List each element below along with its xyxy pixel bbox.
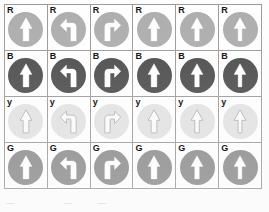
- signal-disc: [137, 58, 172, 93]
- cell-color-label: G: [178, 143, 185, 153]
- signal-disc: [94, 58, 129, 93]
- icon-grid: RRRRRRBBBBBByyyyyyGGGGGG: [4, 4, 262, 189]
- arrow-turn-left-icon: [54, 106, 84, 136]
- cell-color-label: R: [93, 5, 99, 15]
- arrow-turn-right-icon: [97, 14, 127, 44]
- cell-color-label: y: [135, 97, 140, 107]
- arrow-up-icon: [139, 60, 169, 90]
- signal-disc: [51, 58, 86, 93]
- arrow-turn-left-icon: [54, 152, 84, 182]
- icon-cell: y: [5, 97, 48, 143]
- arrow-up-icon: [182, 152, 212, 182]
- caption-fragment: —: [64, 198, 72, 207]
- cell-color-label: y: [7, 97, 12, 107]
- arrow-up-icon: [225, 106, 255, 136]
- icon-cell: G: [5, 143, 48, 189]
- icon-cell: R: [5, 5, 48, 51]
- signal-disc: [137, 104, 172, 139]
- cell-color-label: R: [135, 5, 141, 15]
- cell-color-label: R: [50, 5, 56, 15]
- cell-color-label: B: [93, 51, 99, 61]
- caption-fragment: —: [6, 198, 14, 207]
- icon-cell: G: [133, 143, 176, 189]
- cell-color-label: G: [50, 143, 57, 153]
- arrow-turn-right-icon: [97, 152, 127, 182]
- cell-color-label: B: [221, 51, 227, 61]
- figure-caption: — — —: [6, 196, 256, 210]
- cell-color-label: G: [93, 143, 100, 153]
- arrow-turn-left-icon: [54, 14, 84, 44]
- icon-cell: G: [219, 143, 262, 189]
- signal-disc: [137, 150, 172, 185]
- icon-cell: y: [48, 97, 91, 143]
- signal-disc: [8, 58, 43, 93]
- icon-cell: G: [48, 143, 91, 189]
- arrow-up-icon: [182, 14, 212, 44]
- signal-disc: [223, 12, 258, 47]
- icon-cell: R: [48, 5, 91, 51]
- arrow-up-icon: [11, 106, 41, 136]
- cell-color-label: B: [50, 51, 56, 61]
- cell-color-label: y: [178, 97, 183, 107]
- icon-cell: B: [133, 51, 176, 97]
- icon-cell: G: [91, 143, 134, 189]
- icon-cell: y: [219, 97, 262, 143]
- signal-disc: [8, 150, 43, 185]
- cell-color-label: R: [7, 5, 13, 15]
- cell-color-label: B: [135, 51, 141, 61]
- cell-color-label: y: [221, 97, 226, 107]
- signal-disc: [8, 104, 43, 139]
- signal-disc: [223, 104, 258, 139]
- signal-disc: [94, 12, 129, 47]
- cell-color-label: B: [7, 51, 13, 61]
- cell-color-label: G: [221, 143, 228, 153]
- signal-disc: [94, 150, 129, 185]
- icon-cell: y: [176, 97, 219, 143]
- signal-disc: [180, 150, 215, 185]
- cell-color-label: R: [178, 5, 184, 15]
- arrow-up-icon: [225, 152, 255, 182]
- arrow-turn-right-icon: [97, 106, 127, 136]
- cell-color-label: G: [7, 143, 14, 153]
- icon-cell: B: [219, 51, 262, 97]
- signal-disc: [51, 12, 86, 47]
- icon-cell: B: [5, 51, 48, 97]
- arrow-up-icon: [139, 152, 169, 182]
- icon-cell: B: [48, 51, 91, 97]
- icon-cell: R: [91, 5, 134, 51]
- arrow-up-icon: [11, 152, 41, 182]
- signal-disc: [180, 12, 215, 47]
- arrow-turn-right-icon: [97, 60, 127, 90]
- traffic-arrow-icon-grid-figure: RRRRRRBBBBBByyyyyyGGGGGG — — —: [0, 0, 269, 212]
- signal-disc: [94, 104, 129, 139]
- cell-color-label: B: [178, 51, 184, 61]
- signal-disc: [223, 150, 258, 185]
- icon-cell: R: [133, 5, 176, 51]
- icon-cell: B: [91, 51, 134, 97]
- arrow-turn-left-icon: [54, 60, 84, 90]
- arrow-up-icon: [225, 60, 255, 90]
- signal-disc: [180, 58, 215, 93]
- cell-color-label: y: [93, 97, 98, 107]
- arrow-up-icon: [225, 14, 255, 44]
- icon-cell: B: [176, 51, 219, 97]
- arrow-up-icon: [139, 14, 169, 44]
- icon-cell: y: [133, 97, 176, 143]
- cell-color-label: G: [135, 143, 142, 153]
- arrow-up-icon: [182, 60, 212, 90]
- arrow-up-icon: [11, 14, 41, 44]
- signal-disc: [137, 12, 172, 47]
- arrow-up-icon: [139, 106, 169, 136]
- signal-disc: [8, 12, 43, 47]
- icon-cell: R: [219, 5, 262, 51]
- cell-color-label: R: [221, 5, 227, 15]
- signal-disc: [180, 104, 215, 139]
- arrow-up-icon: [11, 60, 41, 90]
- signal-disc: [223, 58, 258, 93]
- signal-disc: [51, 104, 86, 139]
- icon-cell: R: [176, 5, 219, 51]
- cell-color-label: y: [50, 97, 55, 107]
- caption-fragment: —: [98, 198, 106, 207]
- arrow-up-icon: [182, 106, 212, 136]
- icon-cell: G: [176, 143, 219, 189]
